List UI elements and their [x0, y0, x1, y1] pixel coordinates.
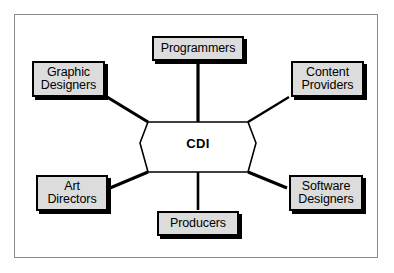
connector-graphic-designers-cdi — [107, 97, 148, 122]
cdi-center-label: CDI — [148, 131, 248, 155]
node-programmers[interactable]: Programmers — [152, 36, 244, 61]
node-producers-label: Producers — [170, 217, 226, 231]
node-graphic-designers-label-line2: Designers — [41, 79, 96, 93]
diagram-canvas: CDI Programmers Graphic Designers Conten… — [0, 0, 394, 273]
connector-content-providers-cdi — [248, 97, 289, 122]
node-graphic-designers[interactable]: Graphic Designers — [32, 61, 105, 97]
node-content-providers-label-line2: Providers — [302, 79, 354, 93]
node-producers[interactable]: Producers — [157, 211, 239, 236]
connector-art-directors-cdi — [110, 172, 148, 188]
node-content-providers[interactable]: Content Providers — [291, 61, 364, 97]
node-art-directors[interactable]: Art Directors — [36, 175, 108, 211]
node-content-providers-label-line1: Content — [306, 66, 349, 80]
node-art-directors-label-line1: Art — [64, 180, 80, 194]
node-software-designers-label-line2: Designers — [298, 193, 353, 207]
node-software-designers[interactable]: Software Designers — [289, 175, 363, 211]
connector-software-designers-cdi — [248, 172, 287, 188]
node-graphic-designers-label-line1: Graphic — [47, 66, 90, 80]
node-programmers-label: Programmers — [161, 42, 236, 56]
node-art-directors-label-line2: Directors — [47, 193, 96, 207]
node-software-designers-label-line1: Software — [302, 180, 351, 194]
